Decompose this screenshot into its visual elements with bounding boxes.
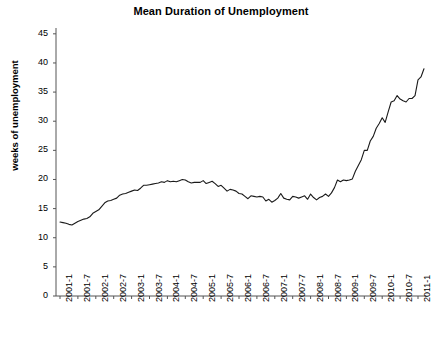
x-tick-label: 2005-1 — [207, 274, 217, 302]
y-tick-label: 10 — [26, 232, 48, 242]
y-tick-label: 30 — [26, 115, 48, 125]
axes — [56, 28, 426, 296]
x-tick-label: 2009-7 — [368, 274, 378, 302]
x-tick-label: 2004-7 — [189, 274, 199, 302]
y-tick-label: 5 — [26, 261, 48, 271]
x-tick-label: 2007-1 — [279, 274, 289, 302]
y-tick-label: 40 — [26, 57, 48, 67]
y-tick-label: 15 — [26, 203, 48, 213]
x-tick-label: 2010-7 — [404, 274, 414, 302]
x-tick-label: 2002-1 — [100, 274, 110, 302]
x-tick-label: 2008-1 — [315, 274, 325, 302]
x-tick-label: 2007-7 — [297, 274, 307, 302]
x-tick-label: 2009-1 — [350, 274, 360, 302]
y-tick-label: 35 — [26, 86, 48, 96]
x-tick-label: 2003-7 — [154, 274, 164, 302]
x-axis-ticks — [60, 296, 418, 299]
x-tick-label: 2011-1 — [422, 275, 432, 302]
x-tick-label: 2004-1 — [171, 274, 181, 302]
x-tick-label: 2003-1 — [136, 274, 146, 302]
y-tick-label: 0 — [26, 290, 48, 300]
chart-container: Mean Duration of Unemployment weeks of u… — [0, 0, 442, 357]
x-tick-label: 2005-7 — [225, 274, 235, 302]
y-tick-label: 25 — [26, 144, 48, 154]
data-series-line — [60, 69, 424, 225]
x-tick-label: 2006-1 — [243, 274, 253, 302]
y-tick-label: 45 — [26, 28, 48, 38]
x-tick-label: 2001-1 — [64, 274, 74, 302]
x-tick-label: 2006-7 — [261, 274, 271, 302]
x-tick-label: 2010-1 — [386, 274, 396, 302]
x-tick-label: 2008-7 — [333, 274, 343, 302]
y-tick-label: 20 — [26, 173, 48, 183]
x-tick-label: 2002-7 — [118, 274, 128, 302]
plot-area — [0, 0, 442, 357]
x-tick-label: 2001-7 — [82, 274, 92, 302]
